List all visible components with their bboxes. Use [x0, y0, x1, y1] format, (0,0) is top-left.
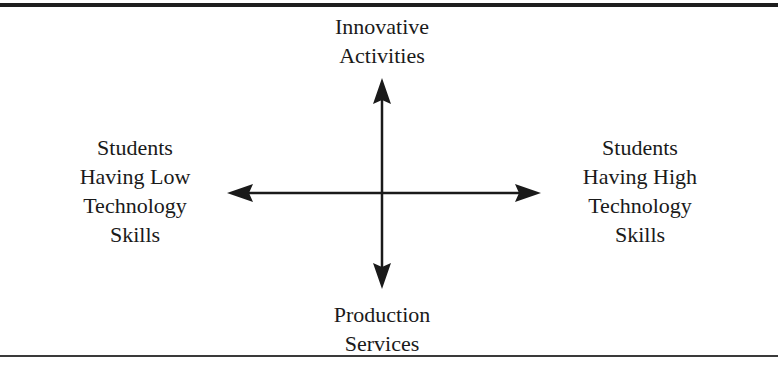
horizontal-double-arrow-icon: [227, 184, 541, 202]
axes-graphic: [0, 0, 778, 382]
vertical-double-arrow-icon: [373, 78, 391, 289]
bottom-border-rule: [0, 355, 778, 357]
